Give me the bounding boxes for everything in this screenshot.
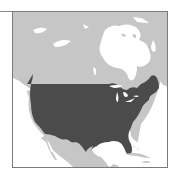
map-frame bbox=[12, 11, 168, 168]
locator-map bbox=[13, 12, 167, 167]
